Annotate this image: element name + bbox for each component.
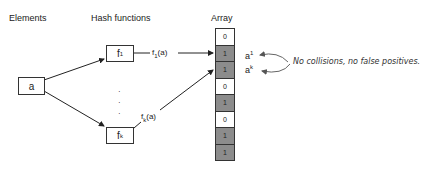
connector-arrows <box>0 0 427 174</box>
hash-box-f1: f1 <box>106 45 134 62</box>
array-cell: 1 <box>216 145 234 161</box>
hash-sub: 1 <box>120 51 123 57</box>
array-cell: 1 <box>216 46 234 63</box>
array-cell: 1 <box>216 62 234 79</box>
hash-sub: k <box>120 133 123 139</box>
element-box-a: a <box>18 77 45 95</box>
array-cell: 1 <box>216 95 234 112</box>
array-cell: 0 <box>216 112 234 129</box>
handwritten-note: No collisions, no false positives. <box>293 57 420 66</box>
ellipsis-dots: · · · <box>118 86 121 119</box>
hash-box-fk: fk <box>106 127 134 144</box>
ak-label: ak <box>245 64 253 75</box>
element-label: a <box>29 81 35 92</box>
bit-array: 0 1 1 0 1 0 1 1 <box>215 28 235 161</box>
array-cell: 0 <box>216 79 234 96</box>
fk-output-label: fk(a) <box>141 112 156 123</box>
array-cell: 0 <box>216 29 234 46</box>
a1-label: a1 <box>245 50 253 61</box>
f1-output-label: f1(a) <box>152 48 167 59</box>
array-cell: 1 <box>216 128 234 145</box>
